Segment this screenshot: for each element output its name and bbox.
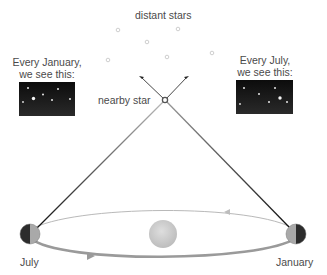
nearby-star-icon — [162, 97, 167, 102]
january-caption-line2: we see this: — [2, 68, 92, 80]
distant-stars-group — [106, 27, 214, 62]
distant-star-icon — [145, 40, 149, 44]
distant-star-icon — [165, 55, 169, 59]
january-caption-line1: Every January, — [2, 56, 92, 68]
earth-january-icon — [286, 224, 306, 244]
parallax-diagram — [0, 0, 327, 275]
nearby-star-label: nearby star — [98, 94, 151, 106]
earth-july-label: July — [20, 256, 39, 268]
january-sky-view — [19, 82, 75, 116]
july-caption: Every July, we see this: — [220, 54, 310, 78]
distant-star-icon — [176, 27, 180, 31]
arrow-tip-right-icon — [184, 76, 189, 79]
orbit-arrow-icon — [224, 209, 230, 215]
earth-january-label: January — [276, 256, 313, 268]
distant-star-icon — [210, 51, 214, 55]
july-sky-view — [236, 80, 293, 114]
sight-line-july — [37, 100, 165, 228]
distant-star-icon — [116, 28, 120, 32]
distant-stars-label: distant stars — [135, 9, 192, 21]
extension-line-right — [165, 77, 187, 100]
july-caption-line2: we see this: — [220, 66, 310, 78]
earth-july-icon — [20, 224, 40, 244]
distant-star-icon — [106, 58, 110, 62]
sun-icon — [149, 220, 177, 248]
january-caption: Every January, we see this: — [2, 56, 92, 80]
sight-line-january — [165, 100, 289, 227]
july-caption-line1: Every July, — [220, 54, 310, 66]
